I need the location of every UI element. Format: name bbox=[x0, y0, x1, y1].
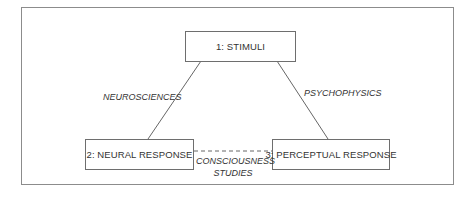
node-neural-response-label: 2: NEURAL RESPONSE bbox=[87, 149, 193, 160]
node-perceptual-response: 3: PERCEPTUAL RESPONSE bbox=[272, 139, 390, 170]
edge-label-consciousness-studies: CONSCIOUSNESS STUDIES bbox=[196, 155, 270, 179]
edge-label-neurosciences: NEUROSCIENCES bbox=[103, 91, 182, 103]
edge-stimuli-perceptual bbox=[277, 61, 328, 139]
node-stimuli: 1: STIMULI bbox=[185, 31, 296, 62]
node-stimuli-label: 1: STIMULI bbox=[216, 41, 265, 52]
edge-label-psychophysics: PSYCHOPHYSICS bbox=[304, 87, 382, 99]
edge-label-consciousness-line1: CONSCIOUSNESS bbox=[196, 155, 270, 167]
node-perceptual-response-label: 3: PERCEPTUAL RESPONSE bbox=[265, 149, 396, 160]
node-neural-response: 2: NEURAL RESPONSE bbox=[85, 139, 194, 170]
edge-label-consciousness-line2: STUDIES bbox=[196, 167, 270, 179]
